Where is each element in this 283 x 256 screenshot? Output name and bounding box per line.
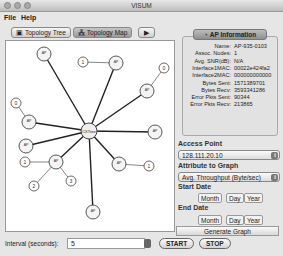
ap-info-value: 000000000000 [234, 72, 271, 79]
ap-info-row: Assoc. Nodes:1 [184, 50, 237, 57]
access-point-label: Access Point [178, 140, 222, 147]
svg-text:AP: AP [114, 60, 119, 64]
ap-info-key: Bytes Sent: [184, 80, 234, 87]
ap-info-key: Name: [184, 43, 234, 50]
ap-info-value: 00022e424fa2 [234, 65, 270, 72]
select-arrows-icon: ⇕ [271, 174, 278, 181]
ap-info-row: Avg. SNR(dB):N/A [184, 58, 243, 65]
attribute-value: Avg. Throughput (Byte/sec) [182, 174, 261, 181]
svg-text:AP: AP [42, 51, 47, 55]
arrow-right-icon: ▶ [144, 29, 149, 37]
menu-help[interactable]: Help [21, 14, 36, 22]
access-point-select[interactable]: 128.111.20.10 ⇕ [178, 150, 280, 160]
tab-label: Topology Tree [25, 29, 66, 36]
svg-text:AP: AP [24, 143, 29, 147]
client-node[interactable]: 1 [144, 161, 154, 171]
view-tabs: ▣ Topology Tree ⁂ Topology Map ▶ [11, 27, 155, 38]
ap-info-key: Bytes Recv: [184, 87, 234, 94]
access-point-node[interactable]: AP [112, 157, 126, 171]
ap-information-header: ◔ AP Information [193, 29, 267, 40]
svg-text:AP: AP [153, 129, 158, 133]
controller-node[interactable]: CXTree [81, 123, 97, 139]
svg-text:AP: AP [27, 119, 32, 123]
ap-info-value: 3593341286 [234, 87, 265, 94]
generate-graph-button[interactable]: Generate Graph [176, 226, 279, 236]
topology-graph[interactable]: AP1AP0AP0APAPAP123AP1APAPCXTree [6, 41, 176, 233]
attribute-label: Attribute to Graph [178, 162, 238, 169]
ap-info-value: N/A [234, 58, 243, 65]
access-point-node[interactable]: AP [37, 47, 51, 61]
ap-info-key: Avg. SNR(dB): [184, 58, 234, 65]
ap-info-row: Interface2MAC:000000000000 [184, 72, 271, 79]
svg-text:0: 0 [15, 100, 18, 106]
end-month-field[interactable]: Month [198, 215, 222, 225]
svg-text:CXTree: CXTree [82, 129, 96, 134]
title-bar: VISUM [0, 0, 283, 12]
svg-text:AP: AP [54, 159, 59, 163]
client-node[interactable]: 0 [11, 98, 21, 108]
tab-label: Topology Map [87, 29, 127, 36]
ap-info-value: 213865 [234, 101, 253, 108]
access-point-node[interactable]: AP [140, 84, 154, 98]
client-node[interactable]: 2 [29, 181, 39, 191]
access-point-value: 128.111.20.10 [182, 152, 223, 159]
svg-text:AP: AP [117, 161, 122, 165]
ap-header-label: AP Information [210, 31, 256, 38]
interval-input[interactable]: 5 [67, 238, 145, 249]
access-point-node[interactable]: AP [49, 155, 63, 169]
svg-text:0: 0 [163, 65, 166, 71]
monitor-icon: ▣ [16, 29, 23, 37]
ap-info-key: Interface2MAC: [184, 72, 234, 79]
svg-text:1: 1 [24, 159, 27, 165]
start-month-field[interactable]: Month [198, 193, 222, 203]
select-arrows-icon: ⇕ [271, 152, 278, 159]
svg-text:2: 2 [33, 183, 36, 189]
client-node[interactable]: 1 [20, 157, 30, 167]
topology-map-canvas[interactable]: AP1AP0AP0APAPAP123AP1APAPCXTree [5, 40, 175, 232]
ap-info-key: Error Pkts Sent: [184, 94, 234, 101]
ap-info-key: Interface1MAC: [184, 65, 234, 72]
access-point-node[interactable]: AP [148, 125, 162, 139]
menu-bar: File Help [0, 12, 283, 24]
window-title: VISUM [0, 2, 283, 9]
ap-info-key: Error Pkts Recv: [184, 101, 234, 108]
access-point-node[interactable]: AP [19, 139, 33, 153]
tab-scroll-button[interactable]: ▶ [138, 27, 155, 38]
tab-topology-map[interactable]: ⁂ Topology Map [73, 27, 132, 38]
svg-text:1: 1 [148, 163, 151, 169]
client-node[interactable]: 0 [159, 63, 169, 73]
end-date-label: End Date [178, 204, 208, 211]
client-node[interactable]: 1 [78, 57, 88, 67]
ap-info-row: Name:AP-935-0103 [184, 43, 267, 50]
svg-text:AP: AP [145, 88, 150, 92]
ap-info-row: Bytes Recv:3593341286 [184, 87, 265, 94]
end-day-field[interactable]: Day [226, 215, 244, 225]
start-date-label: Start Date [178, 183, 211, 190]
start-year-field[interactable]: Year [244, 193, 263, 203]
stop-button[interactable]: STOP [199, 238, 231, 249]
access-point-node[interactable]: AP [86, 205, 100, 219]
access-point-node[interactable]: AP [22, 115, 36, 129]
ap-info-key: Assoc. Nodes: [184, 50, 234, 57]
menu-file[interactable]: File [4, 14, 16, 22]
ap-info-value: 1 [234, 50, 237, 57]
ap-info-row: Bytes Sent:1571389701 [184, 80, 265, 87]
svg-text:3: 3 [70, 178, 73, 184]
tab-topology-tree[interactable]: ▣ Topology Tree [11, 27, 71, 38]
svg-text:1: 1 [82, 59, 85, 65]
attribute-select[interactable]: Avg. Throughput (Byte/sec) ⇕ [178, 172, 280, 182]
start-button[interactable]: START [159, 238, 194, 249]
ap-info-row: Error Pkts Recv:213865 [184, 101, 253, 108]
end-year-field[interactable]: Year [244, 215, 263, 225]
wifi-icon: ◔ [204, 31, 208, 38]
interval-label: Interval (seconds): [5, 240, 58, 247]
map-icon: ⁂ [78, 29, 85, 37]
ap-info-row: Error Pkts Sent:90344 [184, 94, 250, 101]
ap-info-value: AP-935-0103 [234, 43, 267, 50]
svg-text:AP: AP [91, 209, 96, 213]
ap-info-value: 90344 [234, 94, 250, 101]
interval-dropdown-button[interactable] [144, 239, 151, 248]
start-day-field[interactable]: Day [226, 193, 244, 203]
client-node[interactable]: 3 [66, 176, 76, 186]
access-point-node[interactable]: AP [109, 56, 123, 70]
